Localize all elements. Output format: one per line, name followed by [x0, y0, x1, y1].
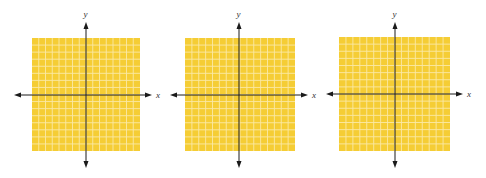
y-axis-down-arrow-icon	[393, 161, 398, 168]
y-axis-down-arrow-icon	[84, 161, 89, 168]
y-axis-down-arrow-icon	[237, 161, 242, 168]
y-axis-label: y	[83, 9, 88, 19]
x-axis-right-arrow-icon	[456, 92, 463, 97]
x-axis-label: x	[155, 90, 160, 100]
coordinate-grid-2: xy	[170, 9, 316, 168]
x-axis-right-arrow-icon	[301, 93, 308, 98]
y-axis-up-arrow-icon	[84, 22, 89, 29]
coordinate-grids-canvas: xy xy xy	[0, 0, 486, 178]
x-axis-label: x	[311, 90, 316, 100]
y-axis-up-arrow-icon	[393, 22, 398, 29]
y-axis-label: y	[392, 9, 397, 19]
x-axis-left-arrow-icon	[14, 93, 21, 98]
x-axis-left-arrow-icon	[326, 92, 333, 97]
coordinate-grid-1: xy	[14, 9, 160, 168]
x-axis-label: x	[466, 89, 471, 99]
x-axis-right-arrow-icon	[145, 93, 152, 98]
y-axis-up-arrow-icon	[237, 22, 242, 29]
y-axis-label: y	[236, 9, 241, 19]
coordinate-grid-3: xy	[326, 9, 471, 168]
x-axis-left-arrow-icon	[170, 93, 177, 98]
